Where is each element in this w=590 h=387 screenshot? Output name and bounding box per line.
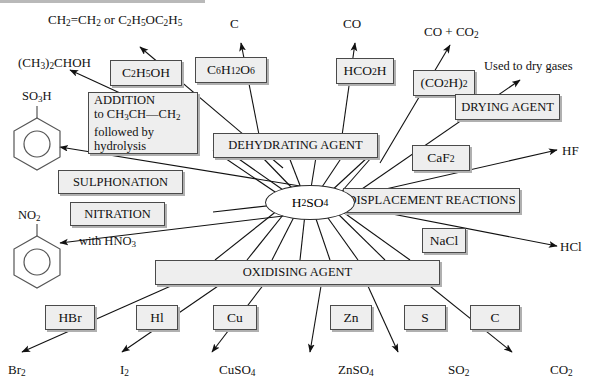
reagent-box-sulphur[interactable]: S <box>404 305 446 330</box>
reagent-box-hydrogen-iodide[interactable]: Hl <box>136 305 178 330</box>
reagent-box-carbon[interactable]: C <box>470 305 520 330</box>
reagent-box-hydrogen-bromide[interactable]: HBr <box>45 305 95 330</box>
substituent-label-so3h: SO3H <box>22 89 52 104</box>
reagent-box-oxalic-acid[interactable]: (CO2H)2 <box>413 70 475 96</box>
product-label-hf: HF <box>562 143 579 159</box>
product-label-hcl: HCl <box>560 239 582 255</box>
role-box-dehydrating-agent[interactable]: DEHYDRATING AGENT <box>213 133 378 158</box>
product-label-zinc-sulphate: ZnSO4 <box>338 362 374 378</box>
role-box-displacement-reactions[interactable]: DISPLACEMENT REACTIONS <box>343 188 520 213</box>
reagent-box-formic-acid[interactable]: HCO2H <box>336 58 394 84</box>
addition-line-3: followed by <box>94 125 154 139</box>
product-label-propanol: (CH3)2CHOH <box>18 55 91 71</box>
product-label-co: CO <box>343 16 361 32</box>
reagent-box-sodium-chloride[interactable]: NaCl <box>422 228 466 253</box>
role-box-drying-agent[interactable]: DRYING AGENT <box>455 94 560 120</box>
product-label-carbon-dioxide: CO2 <box>550 362 573 378</box>
addition-line-4: hydrolysis <box>94 139 146 153</box>
substituent-label-no2: NO2 <box>18 208 41 223</box>
role-box-oxidising-agent[interactable]: OXIDISING AGENT <box>155 260 440 285</box>
product-label-dry-gases: Used to dry gases <box>484 59 573 74</box>
annotation-with-hno3: with HNO3 <box>79 234 136 249</box>
sulphuric-acid-reaction-diagram: CH2=CH2 or C2H5OC2H5 C CO CO + CO2 Used … <box>0 0 590 387</box>
reagent-box-zinc[interactable]: Zn <box>330 305 372 330</box>
role-box-sulphonation[interactable]: SULPHONATION <box>58 170 183 194</box>
product-label-iodine: I2 <box>120 362 129 378</box>
center-node-sulphuric-acid[interactable]: H2SO4 <box>265 185 355 220</box>
reagent-box-copper[interactable]: Cu <box>213 305 257 330</box>
addition-line-2: to CH3CH—CH2 <box>94 107 180 124</box>
reagent-box-calcium-fluoride[interactable]: CaF2 <box>412 145 470 171</box>
product-label-sulphur-dioxide: SO2 <box>448 362 469 378</box>
addition-line-1: ADDITION <box>94 93 155 107</box>
structure-benzenesulphonic-acid <box>6 104 68 174</box>
product-label-bromine: Br2 <box>8 362 26 378</box>
product-label-ethene-ether: CH2=CH2 or C2H5OC2H5 <box>48 12 182 28</box>
role-box-nitration[interactable]: NITRATION <box>70 202 165 226</box>
product-label-carbon: C <box>230 16 239 32</box>
product-label-co-co2: CO + CO2 <box>424 24 479 40</box>
structure-nitrobenzene <box>6 222 68 294</box>
role-box-addition[interactable]: ADDITION to CH3CH—CH2 followed by hydrol… <box>88 92 198 154</box>
product-label-copper-sulphate: CuSO4 <box>219 362 255 378</box>
reagent-box-ethanol[interactable]: C2H5OH <box>110 60 182 86</box>
reagent-box-glucose[interactable]: C6H12O6 <box>195 57 267 83</box>
